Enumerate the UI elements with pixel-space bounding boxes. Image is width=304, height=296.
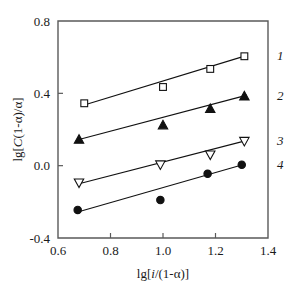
x-tick-label: 1.4 (260, 243, 277, 258)
y-axis-title: lg[C(1-α)/α] (10, 97, 25, 161)
data-point-filled-circle (74, 206, 81, 213)
x-tick-label: 1.2 (207, 243, 223, 258)
y-tick-label: -0.4 (29, 231, 50, 246)
data-point-filled-circle (157, 196, 164, 203)
data-point-open-square (207, 66, 214, 73)
y-tick-label: 0.8 (34, 14, 50, 29)
data-point-filled-circle (204, 170, 211, 177)
y-tick-label: 0.4 (34, 86, 51, 101)
series-label-3: 3 (276, 133, 284, 148)
x-tick-label: 0.8 (102, 243, 118, 258)
series-label-1: 1 (277, 48, 284, 63)
figure-background (0, 0, 304, 296)
chart-figure: 0.60.81.01.21.4 0.80.40.0-0.4 1234 lg[i/… (0, 0, 304, 296)
data-point-open-square (241, 53, 248, 60)
y-tick-label: 0.0 (34, 158, 50, 173)
data-point-open-square (160, 84, 167, 91)
x-axis-title: lg[i/(1-α)] (137, 266, 189, 281)
data-point-open-square (81, 100, 88, 107)
data-point-filled-circle (238, 161, 245, 168)
series-label-2: 2 (277, 88, 284, 103)
x-tick-label: 1.0 (155, 243, 171, 258)
x-tick-label: 0.6 (50, 243, 67, 258)
series-label-4: 4 (277, 157, 284, 172)
